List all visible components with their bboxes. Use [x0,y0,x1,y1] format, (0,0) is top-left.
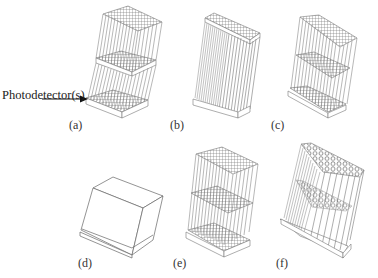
panel-c-diagram [288,15,357,118]
diagram-svg [0,0,378,278]
panel-label-f: (f) [276,256,288,271]
panel-b-diagram [193,13,260,118]
panel-label-d: (d) [78,256,92,271]
panel-label-e: (e) [173,256,186,271]
panel-label-c: (c) [271,118,284,133]
panel-d-diagram [80,177,163,258]
panel-label-b: (b) [170,118,184,133]
panel-f-diagram [280,143,364,258]
panel-e-diagram [186,147,258,257]
figure-canvas: Photodetector(s) (a) (b) (c) (d) (e) (f) [0,0,378,278]
panel-label-a: (a) [69,118,82,133]
panel-a-diagram [86,6,162,118]
photodetector-callout: Photodetector(s) [2,88,85,103]
